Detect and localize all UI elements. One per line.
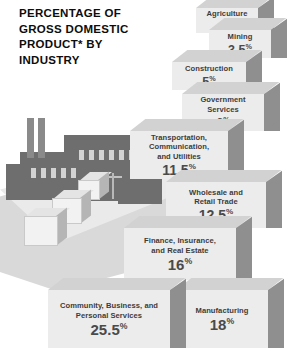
block-top-face bbox=[130, 119, 243, 131]
factory-window-row bbox=[79, 150, 134, 160]
step-label: Mining bbox=[228, 32, 253, 41]
gdp-by-industry-infographic: PERCENTAGE OF GROSS DOMESTIC PRODUCT* BY… bbox=[0, 0, 296, 356]
smokestack-icon bbox=[38, 118, 45, 158]
step-value: 25.5% bbox=[91, 322, 128, 337]
step-label: Transportation, Communication, and Utili… bbox=[149, 133, 209, 161]
step-community-services: Community, Business, and Personal Servic… bbox=[48, 290, 170, 348]
step-value: 16% bbox=[168, 257, 192, 272]
step-finance-insurance: Finance, Insurance, and Real Estate 16% bbox=[124, 228, 236, 280]
step-label: Government Services bbox=[200, 95, 245, 113]
block-side-face bbox=[170, 290, 186, 348]
utility-pole bbox=[112, 173, 114, 199]
step-label: Construction bbox=[185, 64, 233, 73]
block-front-face: Finance, Insurance, and Real Estate 16% bbox=[124, 228, 236, 280]
step-label: Community, Business, and Personal Servic… bbox=[60, 301, 158, 319]
block-front-face: Manufacturing 18% bbox=[176, 290, 268, 348]
block-top-face bbox=[48, 278, 185, 290]
step-label: Agriculture bbox=[206, 9, 247, 18]
step-value: 18% bbox=[210, 317, 234, 332]
step-label: Manufacturing bbox=[196, 306, 249, 315]
step-label: Wholesale and Retail Trade bbox=[189, 188, 243, 206]
factory-window-row bbox=[31, 168, 76, 178]
block-top-face bbox=[176, 278, 283, 290]
block-side-face bbox=[268, 290, 284, 348]
block-side-face bbox=[271, 30, 287, 58]
block-top-face bbox=[166, 170, 281, 182]
smokestack-icon bbox=[27, 118, 34, 158]
step-label: Finance, Insurance, and Real Estate bbox=[144, 236, 216, 254]
block-top-face bbox=[124, 216, 251, 228]
page-title: PERCENTAGE OF GROSS DOMESTIC PRODUCT* BY… bbox=[19, 6, 169, 68]
block-side-face bbox=[236, 228, 252, 280]
block-side-face bbox=[264, 94, 280, 131]
step-manufacturing: Manufacturing 18% bbox=[176, 290, 268, 348]
block-front-face: Community, Business, and Personal Servic… bbox=[48, 290, 170, 348]
crate-box bbox=[24, 216, 58, 246]
block-side-face bbox=[266, 182, 282, 228]
